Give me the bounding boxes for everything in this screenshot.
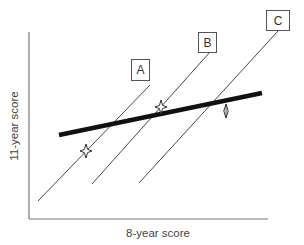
diamond-marker [224,104,228,118]
score-diagram [0,0,304,245]
label-b-text: B [203,36,211,50]
line-a [38,85,150,201]
label-box-b: B [198,32,217,53]
label-box-a: A [131,59,150,81]
label-a-text: A [136,63,144,77]
label-c-text: C [274,14,283,28]
label-box-c: C [266,10,290,31]
x-axis-label: 8-year score [126,227,190,239]
y-axis-label: 11-year score [8,91,20,160]
